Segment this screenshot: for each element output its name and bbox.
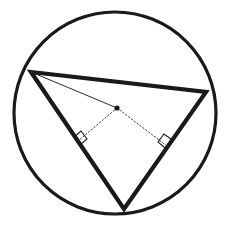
circumcenter-dot [114, 105, 119, 110]
geometry-diagram [0, 0, 231, 225]
geometry-figure-canvas [0, 0, 231, 225]
background-rect [0, 0, 231, 225]
